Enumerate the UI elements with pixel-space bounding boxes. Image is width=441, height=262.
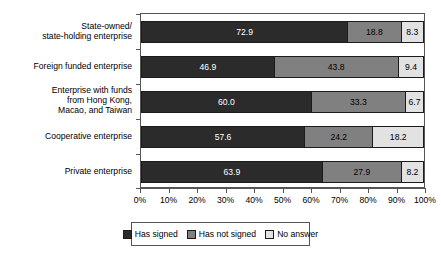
bar-row: 46.943.89.4: [141, 56, 424, 78]
bar-value-label: 18.2: [390, 132, 407, 142]
bar-value-label: 18.8: [366, 27, 383, 37]
legend-label: Has not signed: [199, 229, 256, 239]
bar-row: 63.927.98.2: [141, 161, 424, 183]
category-label: Foreign funded enterprise: [0, 60, 132, 70]
bar-value-label: 24.2: [330, 132, 347, 142]
category-tick: [136, 84, 141, 85]
bar-segment: 6.7: [405, 91, 424, 113]
legend-label: Has signed: [135, 229, 178, 239]
x-axis-tick: [425, 188, 426, 193]
bar-row: 72.918.88.3: [141, 21, 424, 43]
x-axis-tick: [397, 188, 398, 193]
legend-label: No answer: [277, 229, 318, 239]
bar-segment: 63.9: [141, 161, 322, 183]
category-label-line: Foreign funded enterprise: [0, 60, 132, 70]
bar-value-label: 60.0: [218, 97, 235, 107]
category-tick: [136, 154, 141, 155]
legend-swatch-icon: [265, 230, 274, 239]
legend-swatch-icon: [123, 230, 132, 239]
bar-segment: 18.8: [347, 21, 400, 43]
x-axis-tick: [311, 188, 312, 193]
category-label-line: State-owned/: [0, 20, 132, 30]
bar-value-label: 8.3: [406, 27, 418, 37]
bar-value-label: 63.9: [224, 167, 241, 177]
category-label-line: state-holding enterprise: [0, 31, 132, 41]
bar-segment: 27.9: [322, 161, 401, 183]
chart-legend: Has signedHas not signedNo answer: [131, 222, 310, 246]
x-axis-tick: [226, 188, 227, 193]
category-label-line: from Hong Kong,: [0, 95, 132, 105]
bar-segment: 57.6: [141, 126, 304, 148]
bar-segment: 46.9: [141, 56, 274, 78]
category-tick: [136, 119, 141, 120]
bar-segment: 60.0: [141, 91, 311, 113]
category-tick: [136, 14, 141, 15]
bar-segment: 9.4: [398, 56, 425, 78]
bar-value-label: 33.3: [350, 97, 367, 107]
category-label-line: Cooperative enterprise: [0, 130, 132, 140]
bars-container: 72.918.88.346.943.89.460.033.36.757.624.…: [141, 14, 424, 187]
bar-row: 60.033.36.7: [141, 91, 424, 113]
category-label: State-owned/state-holding enterprise: [0, 20, 132, 41]
x-axis-tick: [169, 188, 170, 193]
bar-segment: 8.3: [401, 21, 424, 43]
bar-segment: 24.2: [304, 126, 372, 148]
category-axis-labels: State-owned/state-holding enterpriseFore…: [0, 13, 136, 188]
category-label: Cooperative enterprise: [0, 130, 132, 140]
x-axis-tick: [197, 188, 198, 193]
x-axis-tick-label: 100%: [408, 195, 441, 205]
bar-value-label: 8.2: [406, 167, 418, 177]
bar-row: 57.624.218.2: [141, 126, 424, 148]
category-label-line: Private enterprise: [0, 165, 132, 175]
bar-value-label: 46.9: [199, 62, 216, 72]
x-axis-tick: [368, 188, 369, 193]
category-label: Enterprise with fundsfrom Hong Kong,Maca…: [0, 85, 132, 116]
x-axis-tick: [140, 188, 141, 193]
bar-value-label: 9.4: [405, 62, 417, 72]
legend-item: No answer: [265, 229, 318, 239]
category-label-line: Macao, and Taiwan: [0, 106, 132, 116]
category-tick: [136, 49, 141, 50]
legend-swatch-icon: [187, 230, 196, 239]
bar-value-label: 6.7: [409, 97, 421, 107]
category-label-line: Enterprise with funds: [0, 85, 132, 95]
bar-value-label: 27.9: [353, 167, 370, 177]
bar-segment: 18.2: [372, 126, 424, 148]
bar-segment: 72.9: [141, 21, 347, 43]
bar-value-label: 43.8: [328, 62, 345, 72]
bar-segment: 8.2: [401, 161, 424, 183]
bar-value-label: 57.6: [215, 132, 232, 142]
category-label: Private enterprise: [0, 165, 132, 175]
legend-item: Has signed: [123, 229, 178, 239]
plot-area: 72.918.88.346.943.89.460.033.36.757.624.…: [140, 13, 425, 188]
legend-item: Has not signed: [187, 229, 256, 239]
bar-value-label: 72.9: [236, 27, 253, 37]
x-axis-tick: [283, 188, 284, 193]
x-axis-tick: [340, 188, 341, 193]
bar-segment: 43.8: [274, 56, 398, 78]
bar-segment: 33.3: [311, 91, 405, 113]
x-axis-tick: [254, 188, 255, 193]
